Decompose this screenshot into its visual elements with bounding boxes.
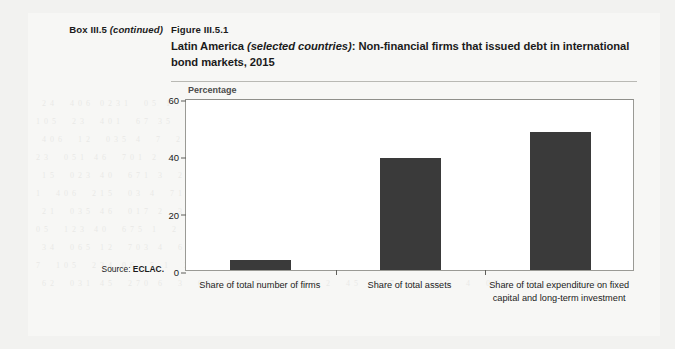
x-axis-label-1: Share of total number of firms	[185, 279, 335, 292]
figure-title-italic: (selected countries)	[247, 40, 352, 52]
source-prefix: Source:	[102, 264, 133, 274]
bar-1[interactable]	[230, 260, 291, 270]
figure-page: 24 406 0231 05 1 4 30 5 501 234 06 7 1 5…	[0, 0, 675, 349]
title-divider	[171, 81, 637, 82]
figure-title-part1: Latin America	[171, 40, 247, 52]
source-note: Source: ECLAC.	[60, 264, 164, 274]
source-value: ECLAC.	[133, 264, 164, 274]
bar-chart-plot-area: 0204060	[185, 99, 634, 271]
axis-unit-label: Percentage	[188, 85, 237, 95]
x-axis-label-2: Share of total assets	[335, 279, 485, 292]
x-axis-labels: Share of total number of firmsShare of t…	[185, 279, 634, 329]
y-axis-tick-60: 60	[168, 95, 186, 106]
box-label: Box III.5 (continued)	[46, 24, 163, 35]
y-axis-tick-40: 40	[168, 152, 186, 163]
figure-number: Figure III.5.1	[171, 24, 637, 35]
y-axis-tick-0: 0	[174, 267, 186, 278]
x-axis-label-3: Share of total expenditure on fixed capi…	[484, 279, 634, 304]
bar-3[interactable]	[530, 132, 591, 270]
x-axis-tick-1	[336, 270, 337, 275]
box-label-continued: (continued)	[110, 24, 163, 35]
figure-title: Latin America (selected countries): Non-…	[171, 38, 637, 70]
bar-2[interactable]	[380, 158, 441, 270]
y-axis-tick-20: 20	[168, 209, 186, 220]
x-axis-tick-2	[485, 270, 486, 275]
figure-heading: Figure III.5.1 Latin America (selected c…	[171, 24, 637, 70]
box-label-main: Box III.5	[69, 24, 107, 35]
